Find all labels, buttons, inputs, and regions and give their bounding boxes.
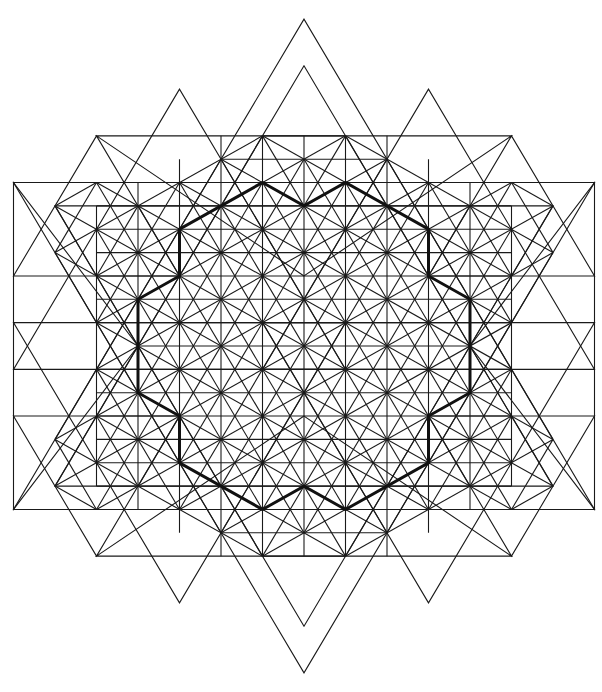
diagonal-line [55,439,97,509]
diagonal-line [470,206,512,276]
diagonal-line [512,183,554,253]
diagonal-line [55,486,97,509]
diagonal-line [97,206,139,276]
far-left-up-triangle [14,183,139,510]
far-right-triangle [470,183,595,510]
diagonal-line [512,439,554,509]
geometric-star-pattern [0,0,602,692]
diagonal-line [55,183,97,253]
diagonal-line [512,486,554,509]
diagonal-line [512,183,554,206]
diagonal-line [55,183,97,206]
diagonal-line [470,416,512,486]
diagonal-line [97,416,139,486]
